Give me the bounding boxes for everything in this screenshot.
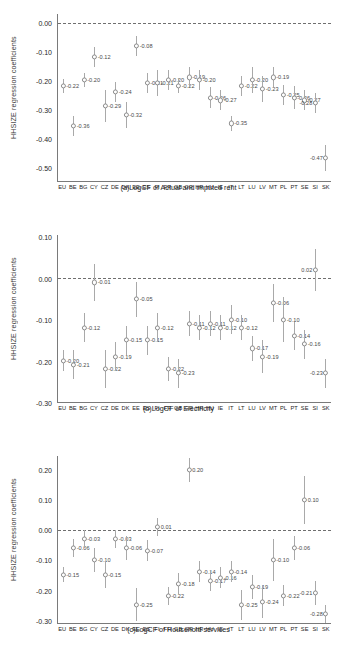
y-tick-label: 0.00 [38, 527, 52, 534]
data-point-group: -0.26 [294, 14, 295, 181]
data-point-marker [239, 325, 244, 330]
data-point-group: -0.23 [178, 235, 179, 402]
data-point-marker [61, 83, 66, 88]
data-point-label: -0.23 [310, 370, 323, 376]
data-point-marker [82, 78, 87, 83]
data-point-marker [134, 43, 139, 48]
data-point-marker [134, 602, 139, 607]
data-point-marker [113, 536, 118, 541]
data-point-group: -0.26 [210, 14, 211, 181]
data-point-marker [197, 325, 202, 330]
y-tick-label: -0.20 [36, 587, 52, 594]
data-point-marker [103, 572, 108, 577]
data-point-group: -0.15 [126, 235, 127, 402]
panel-caption-b: (b)LogCF of Electricity [24, 404, 333, 413]
data-point-group: -0.10 [231, 235, 232, 402]
y-axis-ticks-c: 0.200.100.00-0.10-0.20-0.30 [24, 456, 54, 624]
data-point-group: -0.17 [210, 456, 211, 623]
data-point-label: -0.21 [300, 590, 313, 596]
data-point-marker [313, 101, 318, 106]
data-point-marker [71, 124, 76, 129]
y-tick-label: -0.50 [36, 164, 52, 171]
panel-b: HHSIZE regression coefficients 0.100.00-… [0, 221, 337, 442]
y-tick-label: -0.20 [36, 77, 52, 84]
data-point-marker [208, 95, 213, 100]
data-point-marker [113, 354, 118, 359]
data-point-marker [250, 584, 255, 589]
data-point-marker [176, 371, 181, 376]
data-point-group: -0.20 [63, 235, 64, 402]
data-point-marker [292, 95, 297, 100]
data-point-marker [71, 362, 76, 367]
data-point-marker [239, 602, 244, 607]
data-point-group: -0.14 [294, 235, 295, 402]
data-point-group: -0.03 [84, 456, 85, 623]
axes-a: -0.22-0.36-0.20-0.12-0.29-0.24-0.32-0.08… [57, 14, 331, 182]
data-point-marker [176, 581, 181, 586]
data-point-group: -0.07 [147, 456, 148, 623]
data-point-group: -0.15 [147, 235, 148, 402]
data-point-marker [302, 497, 307, 502]
data-point-group: -0.12 [220, 235, 221, 402]
data-point-group: -0.47 [325, 14, 326, 181]
data-point-group: -0.19 [189, 14, 190, 181]
data-point-group: -0.36 [73, 14, 74, 181]
data-point-group: -0.12 [241, 235, 242, 402]
data-point-marker [124, 545, 129, 550]
data-point-label: -0.28 [300, 100, 313, 106]
data-point-marker [166, 593, 171, 598]
y-tick-label: -0.10 [36, 48, 52, 55]
data-point-group: -0.28 [325, 456, 326, 623]
data-point-group: -0.25 [283, 14, 284, 181]
data-point-marker [166, 366, 171, 371]
data-point-group: -0.23 [325, 235, 326, 402]
y-tick-label: 0.10 [38, 234, 52, 241]
data-point-label: 0.02 [301, 267, 312, 273]
plot-wrap-a: 0.00-0.10-0.20-0.30-0.40-0.50 -0.22-0.36… [24, 14, 333, 182]
data-point-marker [82, 325, 87, 330]
data-point-label: 0.10 [308, 497, 319, 503]
data-point-group: -0.20 [252, 14, 253, 181]
data-point-group: -0.20 [84, 14, 85, 181]
data-point-marker [323, 155, 328, 160]
data-point-marker [281, 593, 286, 598]
data-point-marker [145, 338, 150, 343]
panel-a: HHSIZE regression coefficients 0.00-0.10… [0, 0, 337, 221]
data-point-group: -0.21 [157, 14, 158, 181]
data-point-group: -0.22 [283, 456, 284, 623]
data-point-group: -0.12 [84, 235, 85, 402]
data-point-marker [260, 86, 265, 91]
data-point-group: -0.06 [294, 456, 295, 623]
data-point-group: -0.21 [147, 14, 148, 181]
data-point-group: -0.16 [220, 456, 221, 623]
data-point-group: -0.32 [126, 14, 127, 181]
data-point-group: -0.15 [63, 456, 64, 623]
data-point-marker [92, 557, 97, 562]
data-point-marker [155, 325, 160, 330]
y-tick-label: -0.30 [36, 617, 52, 624]
data-point-group: -0.19 [273, 14, 274, 181]
data-point-marker [229, 317, 234, 322]
data-point-marker [187, 467, 192, 472]
data-point-marker [218, 325, 223, 330]
data-point-group: -0.35 [231, 14, 232, 181]
panel-caption-a: (a)LogCF of Actual and imputed rent [24, 183, 333, 192]
data-point-group: -0.19 [262, 235, 263, 402]
data-point-group: -0.03 [115, 456, 116, 623]
figure-container: HHSIZE regression coefficients 0.00-0.10… [0, 0, 337, 664]
data-point-marker [197, 78, 202, 83]
y-tick-label: 0.00 [38, 275, 52, 282]
data-point-marker [61, 358, 66, 363]
plot-area-a: -0.22-0.36-0.20-0.12-0.29-0.24-0.32-0.08… [58, 14, 331, 181]
data-point-group: -0.10 [273, 456, 274, 623]
data-point-marker [271, 557, 276, 562]
data-point-label: -0.47 [310, 155, 323, 161]
data-point-group: -0.16 [304, 235, 305, 402]
y-axis-ticks-b: 0.100.00-0.10-0.20-0.30 [24, 235, 54, 403]
data-point-group: -0.22 [168, 456, 169, 623]
data-point-group: -0.21 [73, 235, 74, 402]
axes-b: -0.20-0.21-0.12-0.01-0.22-0.19-0.15-0.05… [57, 235, 331, 403]
data-point-label: 0.01 [161, 524, 172, 530]
data-point-marker [292, 333, 297, 338]
data-point-group: -0.25 [136, 456, 137, 623]
